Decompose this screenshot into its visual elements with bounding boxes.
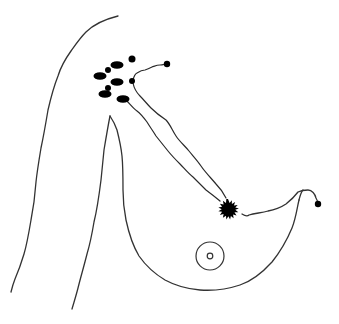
torso-outline bbox=[11, 16, 118, 292]
arm-inner-outline bbox=[72, 116, 110, 309]
lymph-node bbox=[111, 61, 124, 69]
lymph-node bbox=[117, 95, 130, 103]
axillary-lymph-nodes bbox=[94, 56, 136, 103]
tumor-icon bbox=[218, 199, 239, 220]
areola-outline bbox=[196, 242, 224, 270]
lymph-vessel-lower bbox=[126, 100, 220, 201]
lymph-node-right-end bbox=[315, 201, 321, 207]
lymph-node bbox=[129, 56, 136, 63]
lymph-node bbox=[99, 90, 112, 98]
arm-fold-outline bbox=[110, 116, 299, 290]
lymph-node bbox=[129, 78, 135, 84]
lymph-node bbox=[105, 85, 111, 91]
lymph-node-upper-end bbox=[164, 61, 170, 67]
lymph-vessel-middle bbox=[133, 83, 226, 198]
breast-upper-outline bbox=[242, 190, 318, 216]
lymph-node bbox=[94, 72, 107, 80]
lymph-node bbox=[105, 67, 111, 73]
lymph-vessel-upper bbox=[133, 64, 167, 80]
nipple-icon bbox=[207, 253, 213, 259]
breast-lymphatic-diagram bbox=[0, 0, 339, 324]
lymph-node bbox=[111, 78, 124, 86]
